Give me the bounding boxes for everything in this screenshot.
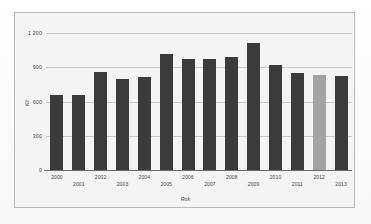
bar-2009	[247, 43, 260, 170]
bar-2000	[50, 95, 63, 170]
y-tick-label: 300	[33, 133, 42, 139]
x-tick-label-2001: 2001	[73, 181, 85, 187]
bar-2012	[313, 75, 326, 170]
x-tick-label-2007: 2007	[204, 181, 216, 187]
bar-2008	[225, 57, 238, 170]
chart-figure: Kč 03006009001 200 200020012002200320042…	[0, 0, 371, 224]
y-axis-title: Kč	[24, 100, 30, 106]
y-tick-label: 0	[39, 167, 42, 173]
x-tick-label-2003: 2003	[117, 181, 129, 187]
scanned-page: Kč 03006009001 200 200020012002200320042…	[0, 0, 371, 224]
x-tick-label-2004: 2004	[139, 174, 151, 180]
x-tick-label-2006: 2006	[182, 174, 194, 180]
x-tick-label-2000: 2000	[51, 174, 63, 180]
x-axis-title: Rok	[0, 196, 371, 202]
y-tick-label: 600	[33, 99, 42, 105]
x-tick-label-2010: 2010	[270, 174, 282, 180]
x-tick-label-2012: 2012	[313, 174, 325, 180]
bar-2007	[203, 59, 216, 170]
bar-2006	[182, 59, 195, 170]
y-tick-label: 900	[33, 64, 42, 70]
bar-2013	[335, 76, 348, 170]
bar-2005	[160, 54, 173, 170]
bar-2010	[269, 65, 282, 170]
bar-2004	[138, 77, 151, 170]
bar-2002	[94, 72, 107, 170]
x-tick-label-2005: 2005	[160, 181, 172, 187]
x-tick-label-2009: 2009	[248, 181, 260, 187]
bar-2001	[72, 95, 85, 170]
bar-series	[46, 33, 352, 170]
x-tick-label-2011: 2011	[292, 181, 303, 187]
plot-area: 03006009001 200 200020012002200320042005…	[46, 33, 352, 170]
x-tick-label-2013: 2013	[335, 181, 347, 187]
x-tick-label-2002: 2002	[95, 174, 107, 180]
x-tick-label-2008: 2008	[226, 174, 238, 180]
x-axis-line	[44, 170, 352, 171]
bar-2011	[291, 73, 304, 170]
y-tick-label: 1 200	[28, 30, 42, 36]
bar-2003	[116, 79, 129, 170]
